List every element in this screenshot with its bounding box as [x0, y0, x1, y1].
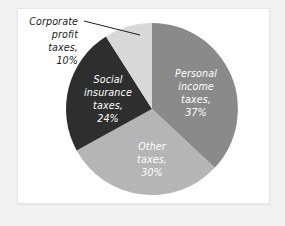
social-insurance-label-line-2: insurance — [84, 87, 132, 98]
personal-income-label-line-1: Personal — [175, 68, 217, 79]
corporate-profit-label-line-4: 10% — [56, 55, 78, 66]
other-taxes-label-line-2: taxes, — [137, 154, 167, 165]
personal-income-label-line-2: income — [178, 81, 214, 92]
corporate-profit-label-line-1: Corporate — [29, 16, 78, 27]
slice-label-other-taxes: Other taxes, 30% — [137, 141, 167, 178]
corporate-profit-label-line-3: taxes, — [48, 42, 78, 53]
social-insurance-label-line-3: taxes, — [93, 100, 123, 111]
personal-income-label-line-4: 37% — [185, 107, 207, 118]
pie-chart-figure: Personal income taxes, 37% Other taxes, … — [0, 0, 285, 226]
corporate-profit-label-line-2: profit — [51, 29, 79, 40]
pie-chart-svg: Personal income taxes, 37% Other taxes, … — [0, 0, 285, 226]
social-insurance-label-line-1: Social — [93, 74, 122, 85]
other-taxes-label-line-1: Other — [138, 141, 167, 152]
other-taxes-label-line-3: 30% — [141, 167, 163, 178]
personal-income-label-line-3: taxes, — [181, 94, 211, 105]
social-insurance-label-line-4: 24% — [97, 113, 119, 124]
